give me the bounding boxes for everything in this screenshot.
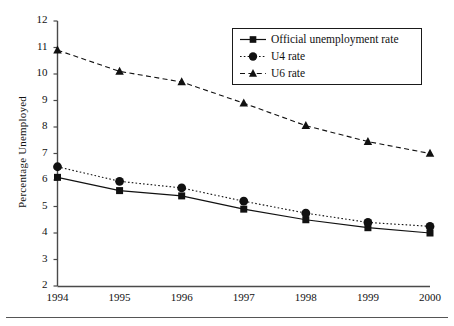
y-axis-tick-label: 5 xyxy=(26,199,48,211)
y-axis-tick-label: 9 xyxy=(26,93,48,105)
x-axis-tick-label: 1999 xyxy=(345,291,391,303)
x-axis-tick-label: 1996 xyxy=(159,291,205,303)
y-axis-tick-label: 6 xyxy=(26,172,48,184)
x-axis-tick-label: 1997 xyxy=(221,291,267,303)
legend-item-3[interactable]: U6 rate xyxy=(233,65,421,82)
y-axis-tick-label: 10 xyxy=(26,66,48,78)
y-axis-tick-label: 4 xyxy=(26,225,48,237)
legend-item-label: U6 rate xyxy=(268,66,305,81)
y-axis-tick-label: 12 xyxy=(26,13,48,25)
circle-marker-icon xyxy=(238,49,268,64)
y-axis-tick-label: 11 xyxy=(26,40,48,52)
y-axis-tick-label: 7 xyxy=(26,146,48,158)
x-axis-tick-label: 1995 xyxy=(97,291,143,303)
y-axis-tick-label: 8 xyxy=(26,119,48,131)
footer-rule xyxy=(6,317,448,318)
legend-item-label: Official unemployment rate xyxy=(268,32,399,47)
series-2 xyxy=(53,162,434,230)
legend-item-2[interactable]: U4 rate xyxy=(233,48,421,65)
legend-item-1[interactable]: Official unemployment rate xyxy=(233,31,421,48)
y-axis-tick-label: 2 xyxy=(26,278,48,290)
legend-item-label: U4 rate xyxy=(268,49,305,64)
square-marker-icon xyxy=(238,32,268,47)
x-axis-tick-label: 1994 xyxy=(35,291,81,303)
y-axis-tick-label: 3 xyxy=(26,252,48,264)
x-axis-tick-label: 1998 xyxy=(283,291,329,303)
chart-legend: Official unemployment rateU4 rateU6 rate xyxy=(232,28,422,85)
chart-figure: Percentage Unemployed 12111098765432 199… xyxy=(0,0,454,326)
x-axis-tick-label: 2000 xyxy=(407,291,453,303)
triangle-marker-icon xyxy=(238,66,268,81)
